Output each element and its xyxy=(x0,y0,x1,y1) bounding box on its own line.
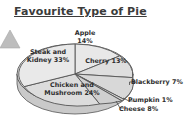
pie-label-cherry: Cherry 13% xyxy=(82,57,130,65)
pie-chart-figure: Favourite Type of Pie Apple 14% Cherry 1… xyxy=(0,0,195,127)
pie-label-apple: Apple 14% xyxy=(69,29,101,45)
pie-label-cherry-line1: Cherry 13% xyxy=(82,57,130,65)
pie-label-cheese: Cheese 8% xyxy=(119,105,158,113)
pie-label-pumpkin: Pumpkin 1% xyxy=(128,96,173,104)
page-title: Favourite Type of Pie xyxy=(14,5,147,18)
pie-label-steak-kidney-line2: Kidney 33% xyxy=(21,56,75,64)
pie-label-steak-kidney-line1: Steak and xyxy=(21,48,75,56)
pie-label-chicken-mushroom-line2: Mushroom 24% xyxy=(37,89,107,97)
pie-label-blackberry: Blackberry 7% xyxy=(131,78,183,86)
pie-label-steak-kidney: Steak and Kidney 33% xyxy=(21,48,75,64)
pie-label-chicken-mushroom-line1: Chicken and xyxy=(37,81,107,89)
pie-label-apple-line2: 14% xyxy=(69,37,101,45)
pie-label-apple-line1: Apple xyxy=(69,29,101,37)
pie-label-chicken-mushroom: Chicken and Mushroom 24% xyxy=(37,81,107,97)
triangle-icon xyxy=(0,30,20,48)
